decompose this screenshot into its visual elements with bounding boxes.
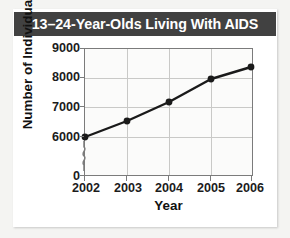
y-axis-ticks: 9000 8000 7000 6000 0 xyxy=(0,0,80,238)
y-axis-break-icon xyxy=(78,141,90,171)
ytick-mark-8000 xyxy=(80,77,84,78)
xtick-label-2004: 2004 xyxy=(155,182,183,195)
y-axis-title-rotation: Number of Individuals xyxy=(17,0,39,123)
xtick-label-2002: 2002 xyxy=(72,182,100,195)
ytick-mark-6000 xyxy=(80,136,84,137)
y-axis-title: Number of Individuals xyxy=(21,0,34,129)
ytick-mark-7000 xyxy=(80,106,84,107)
data-point-2005 xyxy=(208,76,215,83)
data-point-2003 xyxy=(124,118,131,125)
ytick-label-9000: 9000 xyxy=(52,42,80,55)
xtick-label-2005: 2005 xyxy=(197,182,225,195)
data-point-2006 xyxy=(248,64,255,71)
ytick-label-6000: 6000 xyxy=(52,131,80,144)
ytick-mark-9000 xyxy=(80,48,84,49)
data-series xyxy=(84,48,253,176)
xtick-label-2006: 2006 xyxy=(236,182,264,195)
data-point-2004 xyxy=(166,99,173,106)
ytick-label-7000: 7000 xyxy=(52,101,80,114)
xtick-label-2003: 2003 xyxy=(114,182,142,195)
x-axis-title: Year xyxy=(84,199,253,212)
figure: 13–24-Year-Olds Living With AIDS 9000 80… xyxy=(0,0,290,238)
ytick-label-8000: 8000 xyxy=(52,71,80,84)
